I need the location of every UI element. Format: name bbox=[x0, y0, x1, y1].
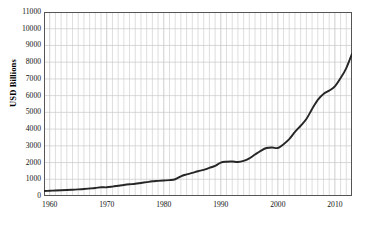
x-tick-label: 1970 bbox=[87, 201, 127, 209]
x-tick-label: 1980 bbox=[144, 201, 184, 209]
y-tick-label: 1000 bbox=[11, 175, 41, 183]
x-tick-label: 2010 bbox=[315, 201, 355, 209]
x-tick-label: 2000 bbox=[258, 201, 298, 209]
y-tick-label: 6000 bbox=[11, 92, 41, 100]
y-tick-label: 11000 bbox=[11, 8, 41, 16]
y-tick-label: 5000 bbox=[11, 108, 41, 116]
y-tick-label: 9000 bbox=[11, 41, 41, 49]
y-tick-label: 0 bbox=[11, 192, 41, 200]
y-tick-label: 7000 bbox=[11, 75, 41, 83]
x-tick-label: 1990 bbox=[201, 201, 241, 209]
y-tick-label: 2000 bbox=[11, 159, 41, 167]
y-tick-label: 4000 bbox=[11, 125, 41, 133]
y-tick-label: 10000 bbox=[11, 25, 41, 33]
chart-canvas bbox=[44, 12, 352, 196]
y-tick-label: 8000 bbox=[11, 58, 41, 66]
y-tick-label: 3000 bbox=[11, 142, 41, 150]
x-tick-label: 1960 bbox=[30, 201, 70, 209]
chart-figure: USD Billions 010002000300040005000600070… bbox=[0, 0, 366, 226]
plot-area bbox=[44, 12, 352, 196]
vertical-gridlines bbox=[50, 12, 347, 196]
y-axis-tick-labels: 0100020003000400050006000700080009000100… bbox=[8, 0, 41, 226]
